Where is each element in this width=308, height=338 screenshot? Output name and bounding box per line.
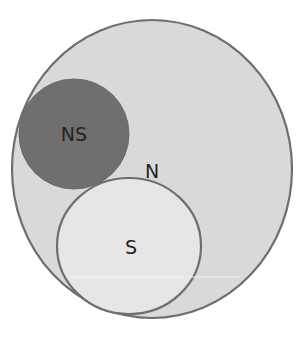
label-ns: NS [61,123,87,145]
label-n: N [145,160,159,182]
venn-diagram: NS N S [0,0,308,338]
label-s: S [125,236,137,258]
